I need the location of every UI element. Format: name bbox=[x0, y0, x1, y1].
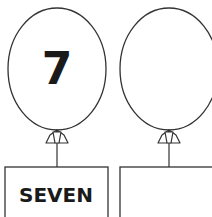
balloon-left-knot-icon bbox=[46, 130, 68, 143]
worksheet-canvas: 7 SEVEN bbox=[0, 0, 212, 217]
balloon-right bbox=[120, 8, 212, 167]
label-box-left-word: SEVEN bbox=[19, 183, 93, 207]
balloon-left: 7 bbox=[8, 8, 106, 167]
balloon-right-knot-icon bbox=[158, 130, 180, 143]
balloon-left-number: 7 bbox=[42, 43, 73, 94]
balloon-right-body bbox=[120, 8, 212, 130]
label-box-right bbox=[120, 167, 212, 217]
